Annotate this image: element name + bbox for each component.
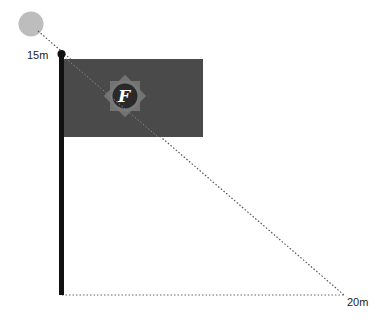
flagpole-finial (58, 50, 66, 58)
flagpole (59, 55, 64, 295)
height-label: 15m (27, 49, 48, 61)
emblem-letter: F (117, 86, 132, 106)
distance-label: 20m (347, 296, 368, 308)
sun-icon (19, 12, 44, 37)
emblem: F (104, 75, 146, 117)
